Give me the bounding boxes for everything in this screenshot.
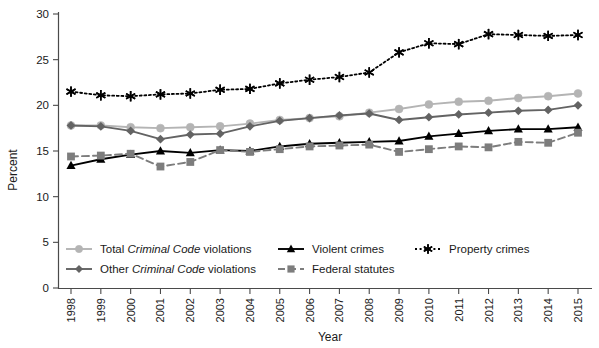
data-point-marker — [544, 92, 552, 100]
data-point-marker — [544, 139, 552, 147]
x-tick-label: 2014 — [542, 298, 554, 322]
legend-label: Property crimes — [449, 243, 530, 255]
x-tick-label: 2009 — [393, 298, 405, 322]
legend-label: Total Criminal Code violations — [100, 243, 252, 255]
y-axis-title: Percent — [6, 149, 20, 191]
series-other-criminal-code-violations — [67, 101, 583, 144]
y-tick-label: 5 — [43, 236, 49, 248]
y-tick-label: 30 — [36, 8, 49, 20]
data-point-marker — [485, 143, 493, 151]
y-axis: 051015202530 Percent — [6, 8, 59, 294]
data-point-marker — [395, 105, 403, 113]
line-chart: 051015202530 Percent 1998199920002001200… — [0, 0, 599, 348]
data-point-marker — [455, 143, 463, 151]
x-tick-label: 2006 — [304, 298, 316, 322]
data-point-marker — [246, 148, 254, 156]
chart-legend: Total Criminal Code violationsOther Crim… — [66, 243, 530, 275]
x-tick-label: 2002 — [184, 298, 196, 322]
legend-label: Federal statutes — [312, 263, 395, 275]
data-point-marker — [455, 98, 463, 106]
data-point-marker — [216, 146, 224, 154]
data-point-marker — [75, 245, 82, 252]
y-tick-label: 25 — [36, 54, 49, 66]
data-point-marker — [156, 135, 165, 144]
x-tick-label: 2008 — [363, 298, 375, 322]
x-tick-group: 1998199920002001200220032004200520062007… — [65, 289, 584, 323]
series-line — [71, 93, 578, 128]
series-group — [66, 29, 582, 171]
x-tick-label: 2010 — [423, 298, 435, 322]
legend-item-property-crimes[interactable]: Property crimes — [415, 243, 530, 255]
data-point-marker — [365, 141, 373, 149]
data-point-marker — [485, 97, 493, 105]
data-point-marker — [287, 265, 294, 272]
data-point-marker — [186, 123, 194, 131]
data-point-marker — [156, 124, 164, 132]
legend-item-total-criminal-code-violations[interactable]: Total Criminal Code violations — [66, 243, 252, 255]
data-point-marker — [157, 163, 165, 171]
chart-figure: 051015202530 Percent 1998199920002001200… — [0, 0, 599, 348]
y-tick-label: 0 — [43, 282, 49, 294]
data-point-marker — [395, 148, 403, 156]
data-point-marker — [306, 143, 314, 151]
data-point-marker — [514, 94, 522, 102]
data-point-marker — [75, 265, 83, 273]
data-point-marker — [66, 86, 75, 96]
data-point-marker — [484, 108, 493, 117]
x-tick-label: 2007 — [333, 298, 345, 322]
data-point-marker — [305, 114, 314, 123]
legend-item-federal-statutes[interactable]: Federal statutes — [278, 263, 395, 275]
data-point-marker — [574, 89, 582, 97]
x-tick-label: 1999 — [95, 298, 107, 322]
x-tick-label: 2012 — [483, 298, 495, 322]
legend-label: Violent crimes — [312, 243, 384, 255]
data-point-marker — [336, 142, 344, 150]
data-point-marker — [127, 150, 135, 158]
data-point-marker — [395, 116, 404, 125]
legend-item-other-criminal-code-violations[interactable]: Other Criminal Code violations — [66, 263, 256, 275]
legend-item-violent-crimes[interactable]: Violent crimes — [278, 243, 384, 255]
x-tick-label: 2003 — [214, 298, 226, 322]
data-point-marker — [454, 110, 463, 119]
data-point-marker — [574, 129, 582, 137]
data-point-marker — [97, 152, 105, 160]
series-property-crimes — [66, 29, 582, 102]
data-point-marker — [425, 100, 433, 108]
series-line — [71, 133, 578, 167]
data-point-marker — [216, 122, 224, 130]
data-point-marker — [425, 145, 433, 153]
data-point-marker — [67, 121, 76, 130]
y-tick-label: 20 — [36, 99, 49, 111]
data-point-marker — [514, 106, 523, 115]
legend-label: Other Criminal Code violations — [100, 263, 256, 275]
data-point-marker — [186, 130, 195, 139]
x-tick-label: 2001 — [154, 298, 166, 322]
y-tick-group: 051015202530 — [36, 8, 58, 294]
data-point-marker — [574, 101, 583, 110]
data-point-marker — [514, 138, 522, 146]
data-point-marker — [216, 129, 225, 138]
data-point-marker — [544, 106, 553, 115]
data-point-marker — [276, 145, 284, 153]
data-point-marker — [67, 153, 75, 161]
y-tick-label: 15 — [36, 145, 49, 157]
series-line — [71, 105, 578, 139]
x-tick-label: 2005 — [274, 298, 286, 322]
y-tick-label: 10 — [36, 191, 49, 203]
data-point-marker — [186, 158, 194, 166]
x-tick-label: 2004 — [244, 298, 256, 322]
x-tick-label: 2013 — [512, 298, 524, 322]
x-axis-title: Year — [318, 330, 342, 344]
series-line — [71, 34, 578, 96]
x-tick-label: 1998 — [65, 298, 77, 322]
data-point-marker — [424, 113, 433, 122]
x-tick-label: 2011 — [453, 298, 465, 322]
data-point-marker — [395, 47, 404, 57]
x-tick-label: 2015 — [572, 298, 584, 322]
x-axis: 1998199920002001200220032004200520062007… — [59, 289, 593, 345]
x-tick-label: 2000 — [125, 298, 137, 322]
